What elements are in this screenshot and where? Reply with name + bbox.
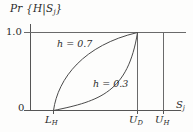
x-tick-label-uh: UH bbox=[155, 115, 169, 126]
probability-plot-figure: Pr {H|Sj} 1.0 0 Sj LH UD UH h = 0.7 h = … bbox=[0, 0, 193, 132]
curve-low-value: 0.3 bbox=[113, 78, 128, 89]
curve-low-equals: = bbox=[99, 78, 113, 89]
x-tick-label-lh: LH bbox=[45, 115, 58, 126]
x-tick-lh-base: L bbox=[45, 114, 52, 125]
curve-annotation-h-0point3: h = 0.3 bbox=[93, 79, 128, 89]
x-tick-lh-subscript: H bbox=[52, 119, 58, 127]
x-axis-label-main: S bbox=[176, 99, 183, 110]
plot-canvas bbox=[0, 0, 193, 132]
y-tick-label-1point0: 1.0 bbox=[6, 27, 22, 37]
y-axis-label-main: Pr {H|S bbox=[10, 2, 53, 14]
y-axis-label-brace: } bbox=[56, 2, 63, 14]
y-axis-label: Pr {H|Sj} bbox=[10, 3, 63, 15]
curve-high-equals: = bbox=[63, 38, 77, 49]
x-tick-label-ud: UD bbox=[129, 115, 143, 126]
curve-annotation-h-0point7: h = 0.7 bbox=[57, 39, 92, 49]
y-tick-label-0: 0 bbox=[18, 103, 24, 113]
x-tick-uh-subscript: H bbox=[163, 119, 169, 127]
x-axis-label-subscript: j bbox=[183, 104, 185, 112]
x-tick-ud-subscript: D bbox=[137, 119, 142, 127]
curve-high-value: 0.7 bbox=[77, 38, 92, 49]
x-axis-label: Sj bbox=[176, 100, 185, 111]
